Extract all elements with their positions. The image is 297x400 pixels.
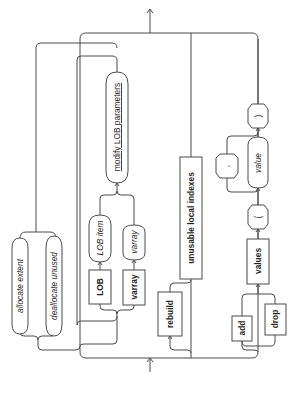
node-allocate-extent[interactable]: allocate extent — [12, 238, 28, 334]
node-varray-keyword[interactable]: varray — [123, 270, 145, 305]
unusable-local-indexes-label: unusable local indexes — [186, 172, 196, 264]
node-comma[interactable]: , — [216, 154, 238, 178]
node-unusable-local-indexes[interactable]: unusable local indexes — [180, 157, 202, 279]
deallocate-unused-label: deallocate unused — [49, 252, 59, 320]
node-close-paren[interactable]: ) — [248, 104, 268, 128]
node-lob-item[interactable]: LOB item — [89, 215, 111, 262]
node-value[interactable]: value — [248, 137, 268, 188]
lob-item-label: LOB item — [95, 221, 105, 256]
comma-label: , — [221, 165, 231, 167]
syntax-diagram: allocate extent deallocate unused LOB — [0, 0, 297, 400]
open-paren-label: ( — [253, 215, 263, 218]
rebuild-label: rebuild — [165, 300, 175, 328]
exit-arrow — [147, 9, 153, 33]
node-drop[interactable]: drop — [265, 304, 286, 335]
entry-arrow — [147, 358, 153, 372]
varray-item-label: varray — [129, 230, 139, 254]
close-paren-label: ) — [253, 114, 263, 117]
lob-keyword-label: LOB — [95, 278, 105, 296]
node-open-paren[interactable]: ( — [248, 205, 268, 229]
node-modify-lob-parameters[interactable]: modify LOB parameters — [106, 72, 128, 183]
modify-lob-parameters-label: modify LOB parameters — [112, 83, 122, 171]
allocate-extent-label: allocate extent — [15, 258, 25, 313]
node-deallocate-unused[interactable]: deallocate unused — [46, 236, 62, 336]
node-add[interactable]: add — [232, 316, 252, 341]
varray-keyword-label: varray — [129, 274, 139, 299]
values-label: values — [253, 248, 263, 274]
node-rebuild[interactable]: rebuild — [158, 292, 182, 336]
value-label: value — [253, 153, 263, 173]
add-label: add — [237, 321, 247, 336]
node-lob-keyword[interactable]: LOB — [89, 270, 111, 304]
drop-label: drop — [270, 310, 280, 329]
node-values[interactable]: values — [247, 239, 269, 284]
node-varray-item[interactable]: varray — [123, 225, 145, 260]
